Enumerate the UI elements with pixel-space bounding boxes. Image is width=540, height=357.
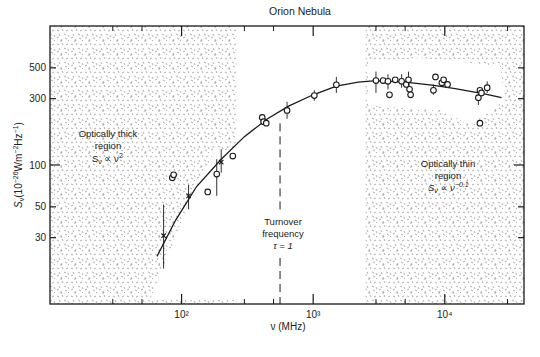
x-tick-label: 10²	[174, 309, 189, 320]
chart-title: Orion Nebula	[269, 5, 331, 17]
circle-data-point	[171, 172, 177, 178]
y-tick-label: 500	[29, 62, 46, 73]
svg-text:Sν ∝ ν2: Sν ∝ ν2	[92, 152, 123, 165]
circle-data-point	[205, 189, 211, 195]
svg-text:region: region	[435, 170, 461, 181]
x-axis-label: ν (MHz)	[271, 321, 306, 332]
svg-text:Turnover: Turnover	[264, 216, 302, 227]
y-tick-label: 30	[35, 232, 47, 243]
circle-data-point	[407, 87, 413, 93]
circle-data-point	[392, 77, 398, 83]
circle-data-point	[445, 82, 451, 88]
circle-data-point	[312, 90, 318, 100]
y-axis-label: Sν(10−26Wm−2Hz−1)	[12, 122, 25, 208]
circle-data-point	[433, 74, 439, 80]
x-tick-label: 10³	[306, 309, 321, 320]
optically-thick-annotation: Optically thick region Sν ∝ ν2	[70, 122, 148, 172]
circle-data-point	[334, 77, 340, 93]
svg-text:Optically thin: Optically thin	[421, 158, 475, 169]
circle-data-point	[408, 92, 414, 98]
y-tick-label: 100	[29, 160, 46, 171]
orion-spectrum-chart: Orion Nebula 10²10³10⁴ 3050100300500 Opt…	[0, 0, 540, 357]
y-tick-label: 300	[29, 93, 46, 104]
circle-data-point	[284, 102, 290, 119]
circle-data-point	[477, 120, 483, 126]
circle-data-point	[479, 90, 485, 96]
y-tick-label: 50	[35, 201, 47, 212]
circle-data-point	[263, 120, 269, 126]
turnover-annotation: Turnover frequency τ = 1	[262, 216, 304, 251]
svg-text:τ = 1: τ = 1	[273, 240, 293, 251]
circle-data-point	[387, 92, 393, 98]
x-tick-label: 10⁴	[437, 309, 452, 320]
svg-text:region: region	[95, 140, 121, 151]
circle-data-point	[230, 153, 236, 159]
svg-text:frequency: frequency	[262, 228, 304, 239]
svg-text:Optically thick: Optically thick	[79, 128, 138, 139]
